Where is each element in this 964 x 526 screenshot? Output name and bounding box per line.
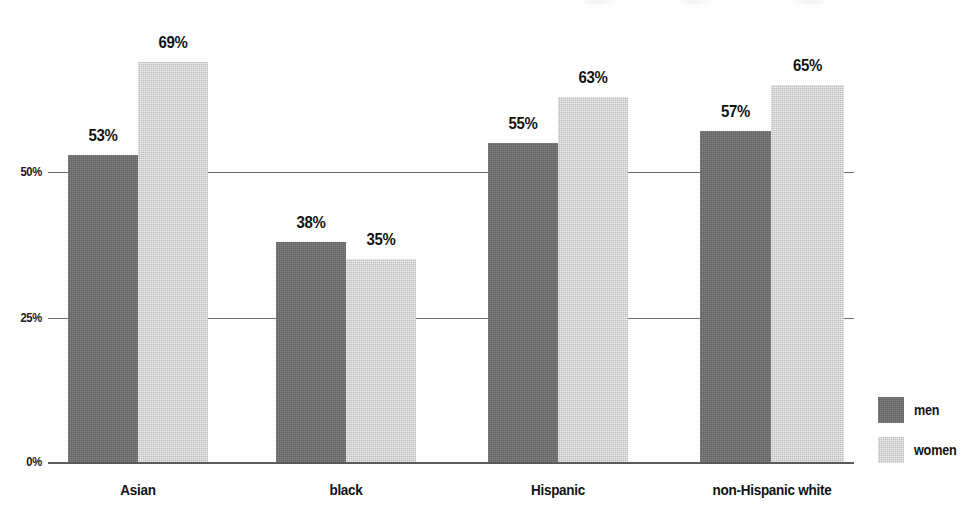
bar-hispanic-men[interactable] [488,143,558,462]
bar-value-hispanic-men: 55% [492,114,554,134]
ytick-stub-50 [48,172,62,173]
category-label-nonhispanicwhite: non-Hispanic white [700,481,844,498]
bar-asian-men[interactable] [68,155,138,462]
legend-swatch-women-icon [878,437,904,463]
ytick-label-50: 50% [6,164,42,179]
bar-value-black-women: 35% [350,230,412,250]
legend-label-men: men [914,402,939,418]
plot-area: 50% 25% 0% 53% 69% Asian 38% 35% black 5… [0,0,964,526]
bar-hispanic-women[interactable] [558,97,628,462]
bar-black-women[interactable] [346,259,416,462]
legend-item-men[interactable]: men [878,393,961,427]
category-label-black: black [274,481,418,498]
bar-asian-women[interactable] [138,62,208,462]
bar-nonhispanicwhite-women[interactable] [771,85,844,462]
legend-label-women: women [914,442,957,458]
bar-value-asian-men: 53% [72,126,134,146]
x-axis-baseline [48,462,854,464]
bar-black-men[interactable] [276,242,346,462]
ytick-stub-25 [48,318,62,319]
bar-value-black-men: 38% [280,213,342,233]
bar-value-asian-women: 69% [142,33,204,53]
bar-nonhispanicwhite-men[interactable] [700,131,771,462]
legend-item-women[interactable]: women [878,433,961,467]
legend-swatch-men-icon [878,397,904,423]
ytick-label-25: 25% [6,310,42,325]
legend: men women [878,393,961,473]
bar-value-hispanic-women: 63% [562,68,624,88]
ytick-label-0: 0% [6,454,42,469]
bar-value-nonhispanicwhite-women: 65% [775,56,839,76]
chart-canvas: 50% 25% 0% 53% 69% Asian 38% 35% black 5… [0,0,964,526]
bar-value-nonhispanicwhite-men: 57% [704,102,766,122]
category-label-asian: Asian [66,481,210,498]
category-label-hispanic: Hispanic [486,481,630,498]
